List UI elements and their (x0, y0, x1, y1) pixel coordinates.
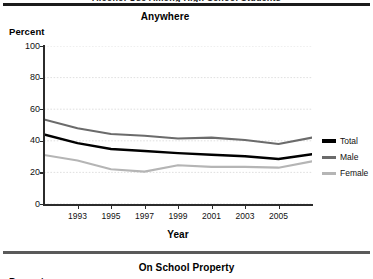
legend-label: Male (340, 153, 358, 162)
legend-item-male: Male (322, 149, 373, 165)
y-tick-label: 0 (14, 200, 40, 209)
section-divider-rule (3, 251, 370, 254)
legend-swatch (322, 172, 336, 175)
y-tick-mark (40, 204, 44, 205)
x-axis-title: Year (44, 229, 312, 240)
y-tick-mark (40, 141, 44, 142)
series-lines (44, 119, 312, 171)
gridlines (44, 46, 312, 204)
x-tick-label: 2005 (259, 212, 299, 221)
legend-label: Total (340, 137, 358, 146)
x-tick-mark (212, 205, 213, 209)
x-tick-mark (279, 205, 280, 209)
x-tick-mark (145, 205, 146, 209)
x-tick-mark (78, 205, 79, 209)
legend-swatch (322, 156, 336, 159)
clipped-header-text: Alcohol Use Among High School Students (0, 0, 373, 2)
y-tick-label: 80 (14, 73, 40, 82)
y-axis-tick-labels: 020406080100 (12, 7, 40, 245)
chart-legend: TotalMaleFemale (322, 133, 373, 181)
x-tick-mark (111, 205, 112, 209)
y-tick-label: 20 (14, 168, 40, 177)
y-tick-label: 100 (14, 42, 40, 51)
chart-title: Anywhere (0, 11, 330, 22)
header-divider-rule (3, 3, 370, 6)
legend-label: Female (340, 169, 368, 178)
chart-svg (44, 46, 312, 204)
plot-area (44, 46, 312, 204)
y-tick-mark (40, 46, 44, 47)
y-tick-mark (40, 172, 44, 173)
legend-swatch (322, 139, 336, 142)
y-tick-label: 60 (14, 105, 40, 114)
anywhere-chart-panel: Anywhere Percent 020406080100 1993199519… (0, 7, 373, 245)
series-line-male (44, 119, 312, 143)
y-axis-line (43, 45, 45, 206)
y-tick-mark (40, 109, 44, 110)
x-tick-mark (245, 205, 246, 209)
next-section-title: On School Property (0, 262, 373, 273)
next-section-y-axis-title: Percent (9, 275, 44, 279)
y-tick-mark (40, 78, 44, 79)
legend-item-total: Total (322, 133, 373, 149)
legend-item-female: Female (322, 165, 373, 181)
y-tick-label: 40 (14, 136, 40, 145)
x-tick-mark (178, 205, 179, 209)
